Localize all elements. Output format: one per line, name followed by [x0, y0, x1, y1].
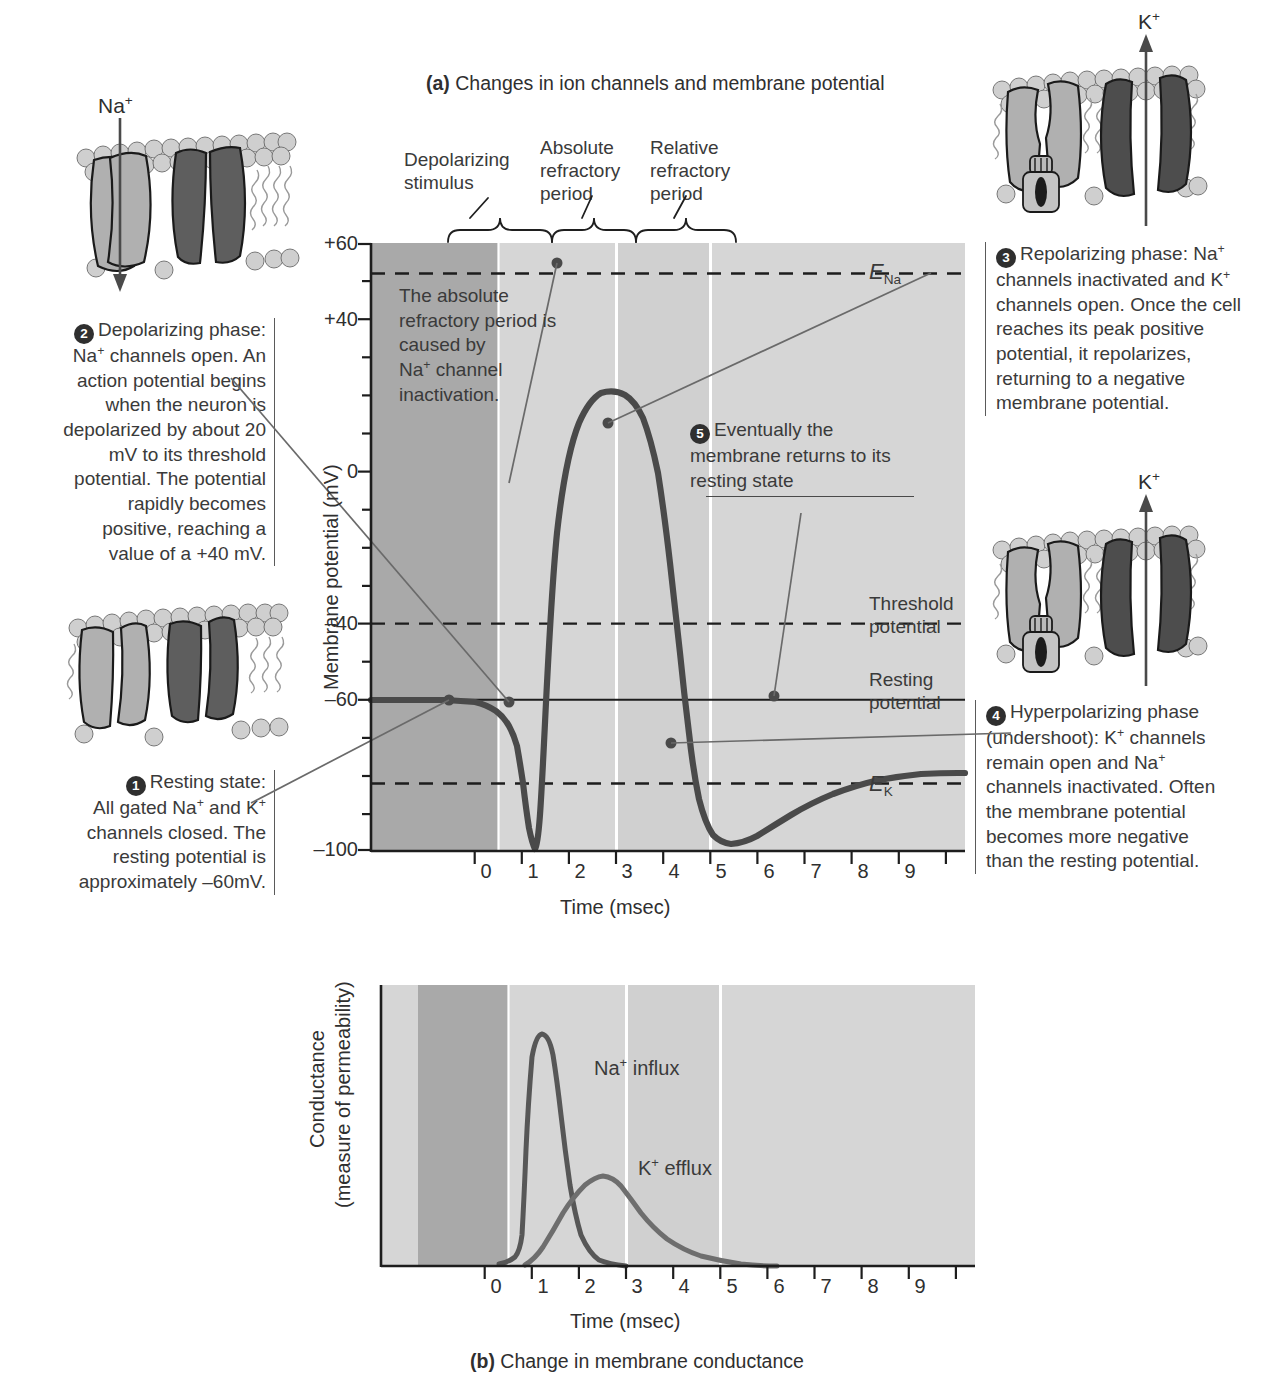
xtick-0: 0	[464, 860, 508, 883]
ion-flux-arrow-up	[1139, 494, 1153, 686]
ion-label-na: Na+	[98, 94, 133, 118]
step-2-line-8: rapidly becomes	[38, 492, 266, 517]
step-2-line-4: when the neuron is	[38, 393, 266, 418]
step-4-annotation: 4Hyperpolarizing phase (undershoot): K+ …	[975, 700, 1284, 874]
band-recovery	[710, 243, 965, 852]
label-resting-line1: Resting	[869, 668, 941, 691]
y-axis-title-bottom-line1: Conductance	[306, 1030, 329, 1148]
step-3-line-5: potential, it repolarizes,	[996, 342, 1284, 367]
panel-a-caption: (a) Changes in ion channels and membrane…	[426, 72, 885, 95]
step-4-line-6: becomes more negative	[986, 825, 1284, 850]
bracket-label-line-1: Relative	[650, 136, 760, 159]
bracket-depolarizing	[448, 218, 552, 242]
ytick-minus60: –60	[292, 688, 358, 711]
phase-brackets-svg	[430, 196, 760, 248]
step-4-line-3: remain open and Na+	[986, 751, 1284, 776]
membrane-svg	[66, 594, 291, 764]
series-label-k-efflux: K+ efflux	[638, 1155, 712, 1181]
step-3-line-2: channels inactivated and K+	[996, 268, 1284, 293]
band-stimulus	[418, 985, 508, 1267]
step-2-line-7: potential. The potential	[38, 467, 266, 492]
step-5-annotation: 5Eventually the membrane returns to its …	[690, 418, 940, 493]
xtick-3: 3	[605, 860, 649, 883]
xtick-b-3: 3	[615, 1275, 659, 1298]
step-2-line-1: 2Depolarizing phase:	[38, 318, 266, 344]
x-axis-title-top: Time (msec)	[560, 896, 800, 919]
membrane-svg	[72, 96, 302, 296]
callout-absolute-refractory: The absolute refractory period is caused…	[399, 284, 589, 407]
label-resting-potential: Resting potential	[869, 668, 941, 714]
bracket-label-line-1: Absolute	[540, 136, 650, 159]
panel-b-caption-text: Change in membrane conductance	[500, 1350, 804, 1372]
step-2-annotation: 2Depolarizing phase: Na+ channels open. …	[38, 318, 275, 566]
bracket-relative	[636, 218, 736, 242]
step-2-line-10: value of a +40 mV.	[38, 542, 266, 567]
label-ek: EK	[869, 770, 893, 799]
panel-b-caption: (b) Change in membrane conductance	[470, 1350, 804, 1373]
label-threshold-potential: Threshold potential	[869, 592, 954, 638]
step-3-line-7: membrane potential.	[996, 391, 1284, 416]
callout-line-2: refractory period is	[399, 309, 589, 334]
callout-line-1: The absolute	[399, 284, 589, 309]
step-4-line-2: (undershoot): K+ channels	[986, 726, 1284, 751]
membrane-diagram-na-inactivated-k-open-top: K+	[990, 14, 1205, 229]
ytick-minus100: –100	[282, 838, 358, 861]
step-2-number: 2	[74, 324, 94, 344]
xtick-b-8: 8	[851, 1275, 895, 1298]
band-recovery	[720, 985, 975, 1267]
callout-line-3: caused by	[399, 333, 589, 358]
step-4-line-7: than the resting potential.	[986, 849, 1284, 874]
ytick-plus60: +60	[292, 232, 358, 255]
xtick-b-1: 1	[521, 1275, 565, 1298]
step-3-line-3: channels open. Once the cell	[996, 293, 1284, 318]
ytick-plus40: +40	[292, 308, 358, 331]
band-relative-refractory	[616, 243, 710, 852]
xtick-6: 6	[747, 860, 791, 883]
step-4-line-5: the membrane potential	[986, 800, 1284, 825]
step-1-line-1: 1Resting state:	[38, 770, 266, 796]
xtick-2: 2	[558, 860, 602, 883]
membrane-diagram-na-open-influx: Na+	[72, 96, 302, 296]
step-1-line-3: channels closed. The	[38, 821, 266, 846]
bracket-label-line-2: refractory	[650, 159, 760, 182]
membrane-svg	[990, 474, 1205, 689]
step-3-number: 3	[996, 248, 1016, 268]
xtick-b-6: 6	[757, 1275, 801, 1298]
xtick-7: 7	[794, 860, 838, 883]
xtick-9: 9	[888, 860, 932, 883]
xtick-b-2: 2	[568, 1275, 612, 1298]
label-threshold-line1: Threshold	[869, 592, 954, 615]
leader-absolute	[582, 196, 592, 218]
bracket-absolute	[552, 218, 636, 242]
membrane-conductance-plot	[381, 985, 975, 1267]
xtick-b-7: 7	[804, 1275, 848, 1298]
step-4-number: 4	[986, 706, 1006, 726]
bracket-label-depolarizing-stimulus: Depolarizing stimulus	[404, 148, 524, 194]
step-3-line-1: 3Repolarizing phase: Na+	[996, 242, 1284, 268]
membrane-diagram-na-inactivated-k-open-bottom: K+	[990, 474, 1205, 689]
step-5-number: 5	[690, 424, 710, 444]
step-3-annotation: 3Repolarizing phase: Na+ channels inacti…	[985, 242, 1284, 416]
step-5-underline	[706, 496, 914, 497]
xtick-1: 1	[511, 860, 555, 883]
step-3-line-6: returning to a negative	[996, 367, 1284, 392]
xtick-8: 8	[841, 860, 885, 883]
step-3-line-4: reaches its peak positive	[996, 317, 1284, 342]
step-4-line-1: 4Hyperpolarizing phase	[986, 700, 1284, 726]
membrane-svg	[990, 14, 1205, 229]
y-axis-title-top: Membrane potential (mV)	[320, 464, 343, 690]
bracket-label-line-1: Depolarizing	[404, 148, 524, 171]
step-1-annotation: 1Resting state: All gated Na+ and K+ cha…	[38, 770, 275, 895]
bracket-label-line-2: refractory	[540, 159, 650, 182]
callout-line-4: Na+ channel	[399, 358, 589, 383]
step-5-line-2: membrane returns to its	[690, 444, 940, 469]
label-resting-line2: potential	[869, 691, 941, 714]
xtick-b-4: 4	[662, 1275, 706, 1298]
step-4-line-4: channels inactivated. Often	[986, 775, 1284, 800]
xtick-b-0: 0	[474, 1275, 518, 1298]
xtick-5: 5	[699, 860, 743, 883]
chart-membrane-conductance	[381, 985, 975, 1267]
panel-a-caption-text: Changes in ion channels and membrane pot…	[455, 72, 884, 94]
x-axis-title-bottom: Time (msec)	[570, 1310, 810, 1333]
step-2-line-6: mV to its threshold	[38, 443, 266, 468]
